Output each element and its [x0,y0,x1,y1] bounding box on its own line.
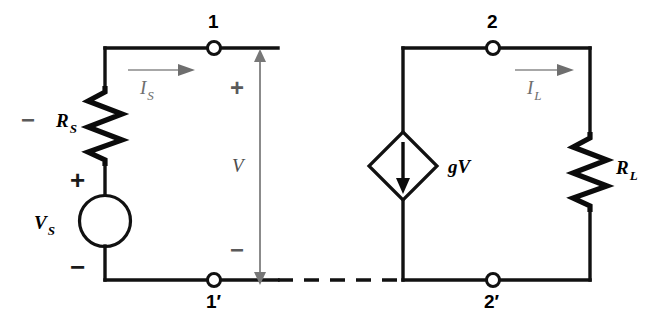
terminal-node-1-prime[interactable] [208,274,221,287]
source-plus-sign: + [70,165,85,195]
dependent-source-label: gV [447,156,472,177]
voltage-source-vs [80,196,131,247]
node-2-prime-label: 2′ [484,291,500,312]
node-1-label: 1 [208,11,219,32]
source-vs-label: VS [34,212,55,238]
dependent-current-source-gv [369,132,437,200]
terminal-node-2-prime[interactable] [487,274,500,287]
circuit-diagram-figure: RS − + VS − IS 1 1′ + V − [0,0,658,331]
node-2-label: 2 [487,11,498,32]
terminal-node-2[interactable] [487,42,500,55]
current-arrow-is [128,64,195,76]
voltage-minus-sign: − [230,236,244,263]
resistor-rs-minus-sign: − [21,106,35,133]
resistor-rs [88,86,122,166]
current-il-label: IL [526,77,542,103]
circuit-schematic-canvas: RS − + VS − IS 1 1′ + V − [0,0,658,331]
voltage-plus-sign: + [230,74,244,101]
current-is-label: IS [139,77,154,103]
node-1-prime-label: 1′ [206,291,222,312]
voltage-v-label: V [232,155,246,176]
resistor-rl-label: RL [615,157,638,183]
resistor-rl [573,132,607,212]
current-arrow-il [515,64,574,76]
resistor-rs-label: RS [55,110,77,136]
terminal-node-1[interactable] [208,42,221,55]
voltage-measure-v [254,49,266,285]
source-minus-sign: − [70,252,85,282]
